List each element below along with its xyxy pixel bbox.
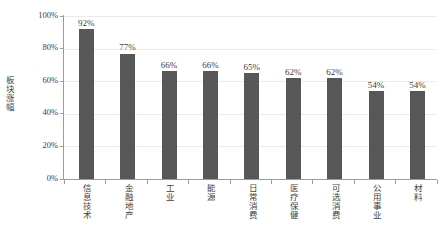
x-axis-category-label: 材料 bbox=[410, 184, 424, 204]
bar-value-label: 66% bbox=[146, 60, 192, 70]
x-axis-category-label: 信息技术 bbox=[79, 184, 93, 222]
bar bbox=[120, 54, 135, 180]
bar bbox=[327, 78, 342, 179]
bar bbox=[79, 29, 94, 179]
x-tick-mark bbox=[312, 180, 313, 184]
y-tick-label: 100% bbox=[2, 11, 58, 20]
bar-value-label: 66% bbox=[187, 60, 233, 70]
y-axis-tick-labels: 100% 80% 60% 40% 20% 0% bbox=[0, 0, 58, 248]
x-axis-category-label: 公用事业 bbox=[369, 184, 383, 222]
x-tick-mark bbox=[271, 180, 272, 184]
plot-area: 92% 77% 66% 66% 65% 62% 62% 54% 54% bbox=[64, 16, 437, 179]
bar-value-label: 65% bbox=[229, 62, 275, 72]
bar bbox=[410, 91, 425, 179]
x-tick-mark bbox=[105, 180, 106, 184]
x-axis-category-label: 金融地产 bbox=[120, 184, 134, 222]
x-axis-category-label: 工业 bbox=[162, 184, 176, 204]
bar-chart: 板块涨幅 100% 80% 60% 40% 20% 0% 92% 7 bbox=[0, 0, 444, 248]
bar-value-label: 62% bbox=[312, 67, 358, 77]
x-tick-mark bbox=[437, 180, 438, 184]
bar-value-label: 92% bbox=[63, 18, 109, 28]
x-tick-mark bbox=[230, 180, 231, 184]
bar-value-label: 54% bbox=[353, 80, 399, 90]
x-tick-mark bbox=[147, 180, 148, 184]
bar-value-label: 77% bbox=[105, 42, 151, 52]
x-tick-mark bbox=[64, 180, 65, 184]
y-tick-label: 80% bbox=[2, 43, 58, 52]
x-tick-mark bbox=[188, 180, 189, 184]
x-axis-category-label: 可选消费 bbox=[327, 184, 341, 222]
x-tick-mark bbox=[354, 180, 355, 184]
y-tick-label: 60% bbox=[2, 76, 58, 85]
bar bbox=[369, 91, 384, 179]
bar bbox=[286, 78, 301, 179]
x-axis-line bbox=[63, 179, 437, 180]
x-tick-mark bbox=[395, 180, 396, 184]
bar-value-label: 54% bbox=[394, 80, 440, 90]
bar-value-label: 62% bbox=[270, 67, 316, 77]
x-axis-category-label: 能源 bbox=[203, 184, 217, 204]
bar bbox=[244, 73, 259, 179]
y-tick-label: 20% bbox=[2, 141, 58, 150]
gridline bbox=[64, 16, 437, 17]
y-tick-label: 0% bbox=[2, 174, 58, 183]
x-axis-category-label: 医疗保健 bbox=[286, 184, 300, 222]
y-tick-label: 40% bbox=[2, 108, 58, 117]
bar bbox=[203, 71, 218, 179]
bar bbox=[162, 71, 177, 179]
x-axis-category-label: 日常消费 bbox=[244, 184, 258, 222]
